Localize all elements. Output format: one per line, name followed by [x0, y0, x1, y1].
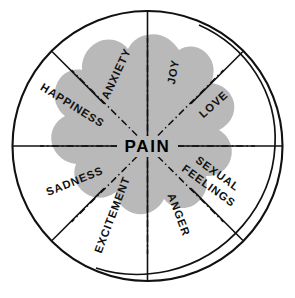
divider-lower-left	[52, 188, 104, 240]
wheel-svg: JOY LOVE SEXUAL FEELINGS ANGER EXCITEMEN…	[0, 0, 295, 298]
pain-emotion-wheel-diagram: JOY LOVE SEXUAL FEELINGS ANGER EXCITEMEN…	[0, 0, 295, 298]
center-label-pain: PAIN	[125, 137, 171, 156]
